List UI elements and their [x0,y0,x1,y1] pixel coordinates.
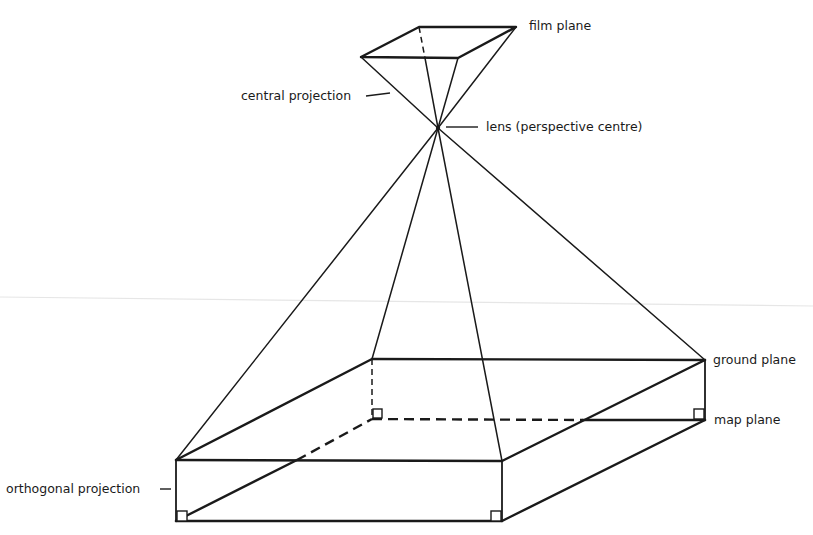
ground-plane-label: ground plane [713,352,796,367]
ground-plane [176,359,705,461]
projection-diagram: film plane central projection lens (pers… [0,0,813,535]
right-angle-icon [694,409,704,419]
lens-to-ground-rays [176,128,705,461]
orthogonal-projectors [176,359,705,521]
right-angle-markers [177,409,704,521]
central-projection-label: central projection [241,88,351,103]
map-plane [176,419,705,521]
lens-label: lens (perspective centre) [486,119,642,134]
right-angle-icon [491,511,501,521]
orthogonal-projection-label: orthogonal projection [6,481,140,496]
scan-artifact-line [0,297,813,306]
map-plane-label: map plane [714,412,781,427]
central-projection-leader [366,93,390,96]
film-plane [361,27,516,58]
film-plane-label: film plane [529,18,591,33]
right-angle-icon [177,511,187,521]
film-to-lens-rays [361,27,516,128]
right-angle-icon [373,409,382,418]
